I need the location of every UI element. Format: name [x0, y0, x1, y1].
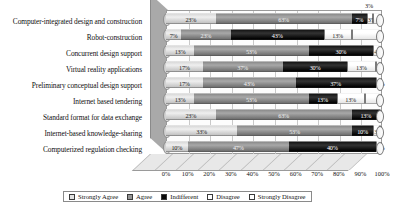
- floor-gridline: [198, 154, 216, 170]
- bar-value-label: 10%: [352, 127, 374, 136]
- chart-legend: Strongly Agree Agree Indifferent Disagre…: [63, 191, 312, 202]
- bar-value-label: 23%: [166, 111, 216, 120]
- category-axis-labels: Computer-integrated design and construct…: [0, 14, 146, 158]
- stacked-bar: 17%43%37%3%: [166, 77, 382, 88]
- bar-value-label: 3%: [368, 15, 372, 24]
- bar-segment[interactable]: 37%: [203, 61, 283, 72]
- bar-value-label: 17%: [166, 63, 203, 72]
- bar-segment[interactable]: 43%: [203, 77, 296, 88]
- stacked-bar: 10%47%40%3%: [166, 141, 382, 152]
- bar-value-label: 47%: [188, 143, 290, 152]
- category-label: Computerized regulation checking: [0, 142, 146, 158]
- bar-segment[interactable]: 13%: [309, 93, 337, 104]
- bar-row[interactable]: 7%23%43%13%: [166, 26, 382, 42]
- bar-segment[interactable]: 33%: [166, 125, 237, 136]
- bar-value-label: 43%: [231, 31, 324, 40]
- x-axis-tick-label: 90%: [355, 170, 367, 177]
- bar-value-label: 10%: [166, 143, 188, 152]
- bar-segment[interactable]: 10%: [352, 125, 374, 136]
- bar-value-label: 37%: [296, 79, 376, 88]
- bar-segment[interactable]: 3%: [376, 141, 382, 152]
- x-axis-tick-label: 40%: [247, 170, 259, 177]
- bar-segment[interactable]: 3%: [376, 77, 382, 88]
- bar-right-cap: [376, 142, 384, 155]
- bar-segment[interactable]: 13%: [324, 29, 352, 40]
- bar-row[interactable]: 13%53%30%4%: [166, 42, 382, 58]
- bar-right-cap: [376, 110, 384, 123]
- legend-item-agree: Agree: [127, 193, 152, 200]
- bar-row[interactable]: 23%63%13%: [166, 106, 382, 122]
- bar-segment[interactable]: 40%: [289, 141, 375, 152]
- bar-segment[interactable]: 17%: [166, 61, 203, 72]
- legend-swatch-icon: [69, 194, 75, 200]
- bar-value-label: 13%: [309, 95, 337, 104]
- bar-row[interactable]: 17%37%30%13%: [166, 58, 382, 74]
- plot-area: 23%63%7%3%7%23%43%13%13%53%30%4%17%37%30…: [150, 10, 382, 168]
- legend-item-strongly-agree: Strongly Agree: [69, 193, 118, 200]
- floor-gridline: [154, 154, 172, 170]
- stacked-bar: 23%63%7%3%: [166, 13, 382, 24]
- bar-segment[interactable]: 23%: [181, 29, 231, 40]
- bar-segment[interactable]: [380, 125, 382, 136]
- bar-segment[interactable]: 53%: [194, 93, 308, 104]
- bar-segment[interactable]: 17%: [166, 77, 203, 88]
- floor-gridline: [284, 154, 302, 170]
- category-label: Standard format for data exchange: [0, 110, 146, 126]
- bar-segment[interactable]: 30%: [309, 45, 374, 56]
- bar-value-label: 53%: [194, 95, 308, 104]
- bar-right-cap: [376, 126, 384, 139]
- bar-segment[interactable]: 63%: [216, 109, 352, 120]
- bar-segment[interactable]: [376, 61, 382, 72]
- bar-row[interactable]: 23%63%7%3%: [166, 10, 382, 26]
- x-axis-tick-label: 70%: [311, 170, 323, 177]
- category-label: Concurrent design support: [0, 46, 146, 62]
- bar-segment[interactable]: 23%: [166, 13, 216, 24]
- bar-row[interactable]: 17%43%37%3%: [166, 74, 382, 90]
- bar-series-group: 23%63%7%3%7%23%43%13%13%53%30%4%17%37%30…: [166, 10, 382, 154]
- bar-value-label: 53%: [194, 47, 308, 56]
- x-axis-tick-label: 10%: [182, 170, 194, 177]
- bar-segment[interactable]: 47%: [188, 141, 290, 152]
- legend-item-strongly-disagree: Strongly Disagree: [249, 193, 306, 200]
- bar-value-label: 13%: [338, 95, 364, 104]
- bar-segment[interactable]: 63%: [216, 13, 352, 24]
- bar-segment[interactable]: [373, 13, 382, 24]
- bar-segment[interactable]: 53%: [237, 125, 351, 136]
- bar-right-cap: [376, 46, 384, 59]
- category-label: Computer-integrated design and construct…: [0, 14, 146, 30]
- bar-segment[interactable]: [380, 109, 382, 120]
- bar-segment[interactable]: 53%: [194, 45, 308, 56]
- bar-value-label: 37%: [203, 63, 283, 72]
- bar-segment[interactable]: 4%: [373, 45, 382, 56]
- bar-segment[interactable]: 7%: [352, 13, 367, 24]
- stacked-bar: 7%23%43%13%: [166, 29, 382, 40]
- bar-value-label: 7%: [166, 31, 181, 40]
- bar-row[interactable]: 10%47%40%3%: [166, 138, 382, 154]
- stacked-bar: 23%63%13%: [166, 109, 382, 120]
- bar-row[interactable]: 13%53%13%13%: [166, 90, 382, 106]
- bar-right-cap: [376, 94, 384, 107]
- floor-gridline: [327, 154, 345, 170]
- floor-gridline: [241, 154, 259, 170]
- bar-segment[interactable]: 13%: [337, 93, 365, 104]
- bar-segment[interactable]: 7%: [166, 29, 181, 40]
- bar-value-label: 23%: [181, 31, 231, 40]
- bar-value-label: 23%: [166, 15, 216, 24]
- bar-segment[interactable]: 13%: [347, 61, 375, 72]
- bar-right-cap: [376, 62, 384, 75]
- bar-segment[interactable]: 43%: [231, 29, 324, 40]
- stacked-bar: 33%53%10%3%: [166, 125, 382, 136]
- bar-row[interactable]: 33%53%10%3%: [166, 122, 382, 138]
- bar-right-cap: [376, 78, 384, 91]
- bar-segment[interactable]: 37%: [296, 77, 376, 88]
- floor-gridline: [262, 154, 280, 170]
- bar-value-label: 30%: [309, 47, 374, 56]
- bar-segment[interactable]: 13%: [166, 45, 194, 56]
- bar-segment[interactable]: 30%: [283, 61, 348, 72]
- bar-segment[interactable]: 10%: [166, 141, 188, 152]
- bar-segment[interactable]: 13%: [166, 93, 194, 104]
- bar-segment[interactable]: [352, 29, 382, 40]
- bar-segment[interactable]: [365, 93, 382, 104]
- bar-segment[interactable]: 23%: [166, 109, 216, 120]
- bar-value-label: 63%: [216, 111, 352, 120]
